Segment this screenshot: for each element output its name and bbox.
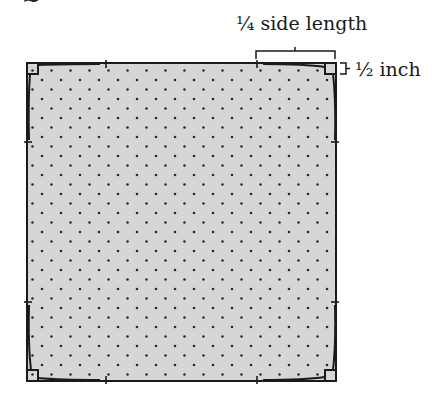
quarter-bracket — [256, 47, 335, 59]
half-inch-bracket — [340, 63, 350, 74]
quarter-side-length-label: ¼ side length — [236, 12, 367, 34]
half-inch-label: ½ inch — [355, 58, 421, 80]
